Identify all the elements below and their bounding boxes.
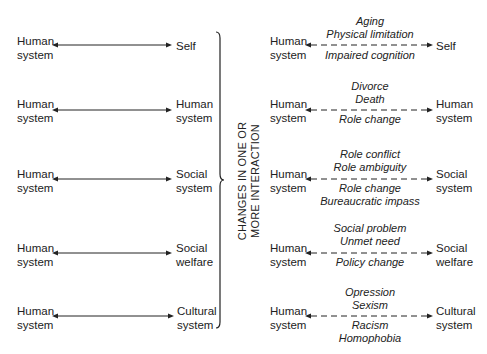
node-human-system: Humansystem [17, 34, 54, 62]
node-cultural-system: Culturalsystem [436, 304, 476, 332]
node-human-system: Humansystem [270, 304, 307, 332]
factors-below: Impaired cognition [325, 49, 415, 62]
node-self: Self [176, 39, 196, 53]
node-self: Self [436, 39, 456, 53]
factors-above: OpressionSexism [345, 286, 395, 312]
node-cultural-system: Culturalsystem [177, 304, 217, 332]
node-social-system: Socialsystem [176, 167, 212, 195]
node-human-system: Humansystem [17, 241, 54, 269]
factors-above: DivorceDeath [351, 80, 388, 106]
node-social-welfare: Socialwelfare [436, 241, 473, 269]
solid-double-arrow [52, 106, 172, 114]
node-human-system-target: Humansystem [176, 97, 213, 125]
factors-below: Policy change [336, 256, 405, 269]
factors-above: Social problemUnmet need [334, 222, 407, 248]
solid-double-arrow [52, 175, 172, 183]
solid-double-arrow [52, 41, 172, 49]
solid-double-arrow [52, 249, 172, 257]
node-human-system: Humansystem [17, 167, 54, 195]
bracket-label: CHANGES IN ONE ORMORE INTERACTION [236, 116, 262, 246]
node-human-system: Humansystem [17, 304, 54, 332]
factors-below: RacismHomophobia [339, 319, 401, 345]
dashed-double-arrow [305, 41, 433, 49]
solid-double-arrow [52, 312, 174, 320]
node-social-welfare: Socialwelfare [176, 241, 213, 269]
node-human-system: Humansystem [270, 167, 307, 195]
node-human-system: Humansystem [17, 97, 54, 125]
factors-above: AgingPhysical limitation [326, 15, 413, 41]
factors-above: Role conflictRole ambiguity [334, 148, 407, 174]
factors-below: Role changeBureaucratic impass [320, 182, 420, 208]
node-social-system: Socialsystem [436, 167, 472, 195]
node-human-system: Humansystem [270, 34, 307, 62]
node-human-system: Humansystem [270, 241, 307, 269]
curly-brace [212, 30, 226, 330]
factors-below: Role change [339, 113, 401, 126]
node-human-system: Humansystem [270, 97, 307, 125]
node-human-system-target: Humansystem [436, 97, 473, 125]
